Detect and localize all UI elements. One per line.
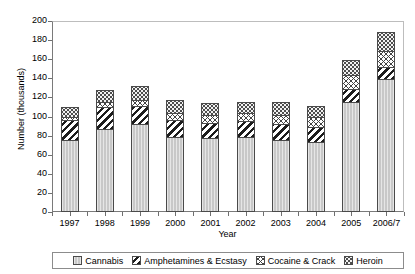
bar-segment-amphetamines (166, 120, 184, 136)
bar-segment-heroin (237, 102, 255, 113)
bar-stack (166, 21, 184, 212)
legend-label: Cannabis (85, 256, 123, 266)
bar-segment-cocaine (201, 115, 219, 124)
bar-segment-cocaine (342, 75, 360, 88)
legend-label: Heroin (356, 256, 383, 266)
bar-segment-amphetamines (96, 107, 114, 129)
bar-stack (272, 21, 290, 212)
bar-segment-cannabis (307, 142, 325, 212)
bar-segment-amphetamines (201, 123, 219, 138)
chart-legend: CannabisAmphetamines & EcstasyCocaine & … (52, 252, 404, 269)
bar-segment-cannabis (166, 137, 184, 212)
x-axis-tick-mark (158, 212, 159, 216)
x-axis-tick-label: 1998 (85, 218, 125, 228)
legend-swatch-amphetamines-icon (132, 256, 141, 265)
y-axis-tick-mark (48, 155, 52, 156)
x-axis-tick-mark (334, 212, 335, 216)
x-axis-tick-mark (175, 212, 176, 216)
bar-segment-amphetamines (131, 106, 149, 124)
bar-segment-amphetamines (272, 124, 290, 140)
legend-item: Amphetamines & Ecstasy (132, 256, 247, 266)
x-axis-tick-mark (298, 212, 299, 216)
bar-segment-heroin (272, 102, 290, 114)
bar-segment-amphetamines (61, 120, 79, 140)
y-axis-tick-mark (48, 117, 52, 118)
bar-stack (96, 21, 114, 212)
legend-label: Amphetamines & Ecstasy (144, 256, 247, 266)
bar-segment-heroin (166, 100, 184, 112)
y-axis-tick-mark (48, 40, 52, 41)
bar-stack (237, 21, 255, 212)
x-axis-title: Year (40, 229, 415, 239)
x-axis-tick-label: 1999 (120, 218, 160, 228)
y-axis-tick-label: 160 (15, 54, 47, 63)
y-axis-tick-mark (48, 21, 52, 22)
bar-segment-amphetamines (307, 127, 325, 142)
bar-segment-cannabis (96, 129, 114, 212)
legend-swatch-heroin-icon (344, 256, 353, 265)
legend-label: Cocaine & Crack (268, 256, 336, 266)
y-axis-tick-label: 40 (15, 169, 47, 178)
bar-segment-heroin (307, 106, 325, 117)
bar-segment-amphetamines (342, 89, 360, 102)
bar-segment-cocaine (307, 117, 325, 127)
y-axis-tick-label: 20 (15, 188, 47, 197)
x-axis-tick-mark (404, 212, 405, 216)
x-axis-tick-mark (281, 212, 282, 216)
bar-segment-cocaine (272, 115, 290, 125)
y-axis-tick-label: 0 (15, 207, 47, 216)
y-axis-tick-mark (48, 193, 52, 194)
bar-segment-cocaine (237, 113, 255, 122)
bar-segment-cannabis (377, 79, 395, 212)
legend-swatch-cocaine-icon (256, 256, 265, 265)
bar-segment-heroin (342, 60, 360, 75)
bar-stack (377, 21, 395, 212)
y-axis-tick-label: 100 (15, 112, 47, 121)
y-axis-tick-label: 60 (15, 150, 47, 159)
bar-segment-heroin (61, 107, 79, 118)
x-axis-tick-mark (351, 212, 352, 216)
x-axis-tick-mark (228, 212, 229, 216)
bar-segment-heroin (131, 86, 149, 100)
bar-stack (201, 21, 219, 212)
x-axis-tick-mark (122, 212, 123, 216)
x-axis-tick-label: 2005 (331, 218, 371, 228)
legend-item: Cannabis (73, 256, 123, 266)
bar-stack (61, 21, 79, 212)
bar-segment-cannabis (342, 102, 360, 212)
bar-segment-heroin (377, 32, 395, 51)
y-axis-tick-mark (48, 136, 52, 137)
bar-segment-heroin (201, 103, 219, 114)
y-axis-tick-label: 180 (15, 35, 47, 44)
x-axis-tick-label: 2003 (261, 218, 301, 228)
x-axis-tick-mark (210, 212, 211, 216)
bar-stack (307, 21, 325, 212)
bar-segment-cocaine (377, 51, 395, 67)
bar-stack (342, 21, 360, 212)
y-axis-tick-label: 120 (15, 92, 47, 101)
x-axis-tick-mark (316, 212, 317, 216)
x-axis-tick-label: 2004 (296, 218, 336, 228)
y-axis-tick-mark (48, 174, 52, 175)
x-axis-tick-mark (386, 212, 387, 216)
x-axis-tick-mark (369, 212, 370, 216)
x-axis-tick-mark (263, 212, 264, 216)
bar-stack (131, 21, 149, 212)
bar-segment-amphetamines (377, 67, 395, 79)
x-axis-tick-mark (70, 212, 71, 216)
bar-segment-cannabis (272, 140, 290, 212)
bar-segment-cocaine (166, 113, 184, 121)
y-axis-tick-label: 140 (15, 73, 47, 82)
bar-segment-cannabis (61, 140, 79, 212)
bar-segment-amphetamines (237, 121, 255, 136)
x-axis-tick-mark (87, 212, 88, 216)
y-axis-tick-mark (48, 78, 52, 79)
x-axis-tick-mark (193, 212, 194, 216)
bar-segment-cannabis (237, 137, 255, 212)
x-axis-tick-label: 2000 (155, 218, 195, 228)
x-axis-tick-mark (246, 212, 247, 216)
bar-segment-cannabis (131, 124, 149, 212)
x-axis-tick-label: 2002 (226, 218, 266, 228)
bar-segment-heroin (96, 90, 114, 102)
legend-swatch-cannabis-icon (73, 256, 82, 265)
